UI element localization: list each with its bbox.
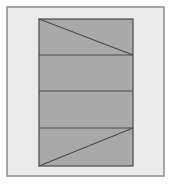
main-rectangle	[39, 19, 133, 166]
diagram-canvas	[0, 0, 174, 184]
